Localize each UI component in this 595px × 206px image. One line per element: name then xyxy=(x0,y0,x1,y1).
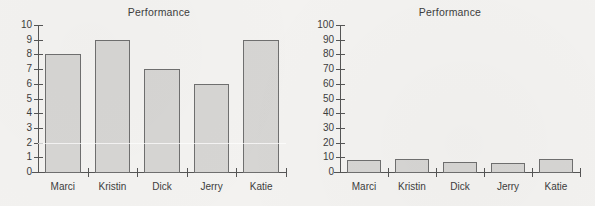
bar xyxy=(45,54,81,173)
x-axis-tick xyxy=(137,168,138,177)
x-axis-tick-label: Kristin xyxy=(398,181,426,192)
y-axis-tick xyxy=(34,128,43,129)
bar xyxy=(243,40,279,173)
y-axis-tick xyxy=(336,128,345,129)
x-axis-tick xyxy=(286,168,287,177)
x-axis-tick xyxy=(88,168,89,177)
y-axis-tick xyxy=(34,99,43,100)
x-axis-tick xyxy=(436,168,437,177)
bar-chart-right: Performance 0102030405060708090100MarciK… xyxy=(295,0,595,206)
y-axis-tick xyxy=(336,54,345,55)
y-axis-tick-label: 9 xyxy=(4,35,32,45)
y-axis-tick xyxy=(336,99,345,100)
y-axis-tick-label: 6 xyxy=(4,79,32,89)
y-axis-tick-label: 1 xyxy=(4,152,32,162)
x-axis-tick xyxy=(580,168,581,177)
x-axis-tick xyxy=(236,168,237,177)
y-axis-tick-label: 7 xyxy=(4,64,32,74)
y-axis-tick xyxy=(34,40,43,41)
y-axis-tick-label: 3 xyxy=(4,123,32,133)
y-axis-tick-label: 60 xyxy=(306,79,334,89)
x-axis-tick-label: Kristin xyxy=(98,181,126,192)
bar xyxy=(347,160,382,173)
x-axis-tick-label: Marci xyxy=(352,181,376,192)
x-axis-tick xyxy=(187,168,188,177)
x-axis-tick-label: Jerry xyxy=(497,181,519,192)
y-axis-tick xyxy=(34,69,43,70)
y-axis-tick xyxy=(336,69,345,70)
x-axis-tick-label: Katie xyxy=(545,181,568,192)
y-axis-tick xyxy=(34,143,43,144)
bar xyxy=(443,162,478,173)
y-axis-tick xyxy=(34,54,43,55)
y-axis-tick-label: 4 xyxy=(4,108,32,118)
x-axis-tick-label: Dick xyxy=(450,181,469,192)
y-axis-tick-label: 40 xyxy=(306,108,334,118)
y-axis-tick xyxy=(336,25,345,26)
y-axis-tick-label: 90 xyxy=(306,35,334,45)
bar-chart-left: Performance 012345678910MarciKristinDick… xyxy=(0,0,300,206)
y-axis-tick-label: 10 xyxy=(306,152,334,162)
chart-page: Performance 012345678910MarciKristinDick… xyxy=(0,0,595,206)
chart-title: Performance xyxy=(295,6,595,18)
y-axis-tick-label: 70 xyxy=(306,64,334,74)
y-axis-tick xyxy=(336,157,345,158)
y-axis-tick-label: 20 xyxy=(306,138,334,148)
y-axis-tick xyxy=(336,40,345,41)
y-axis-tick-label: 30 xyxy=(306,123,334,133)
bar xyxy=(144,69,180,173)
x-axis-tick xyxy=(484,168,485,177)
y-axis-tick xyxy=(34,25,43,26)
y-axis-tick xyxy=(34,84,43,85)
y-axis-tick-label: 0 xyxy=(306,167,334,177)
bar xyxy=(194,84,230,173)
y-axis-tick xyxy=(336,143,345,144)
x-axis-tick-label: Dick xyxy=(152,181,171,192)
bar xyxy=(95,40,131,173)
y-axis-tick xyxy=(34,113,43,114)
y-axis-tick-label: 100 xyxy=(306,20,334,30)
y-axis-tick-label: 80 xyxy=(306,49,334,59)
y-axis-tick-label: 5 xyxy=(4,94,32,104)
y-axis-tick-label: 0 xyxy=(4,167,32,177)
bar xyxy=(491,163,526,173)
y-axis-tick-label: 10 xyxy=(4,20,32,30)
bar xyxy=(395,159,430,173)
x-axis-tick-label: Marci xyxy=(51,181,75,192)
y-axis-tick-label: 2 xyxy=(4,138,32,148)
y-axis-tick xyxy=(336,84,345,85)
y-axis-tick-label: 8 xyxy=(4,49,32,59)
x-axis-tick xyxy=(532,168,533,177)
chart-title: Performance xyxy=(0,6,300,18)
y-axis-tick xyxy=(34,157,43,158)
x-axis-tick-label: Jerry xyxy=(200,181,222,192)
y-axis-tick xyxy=(336,113,345,114)
bar xyxy=(539,159,574,173)
x-axis-tick xyxy=(388,168,389,177)
y-axis-tick-label: 50 xyxy=(306,94,334,104)
x-axis-tick-label: Katie xyxy=(250,181,273,192)
